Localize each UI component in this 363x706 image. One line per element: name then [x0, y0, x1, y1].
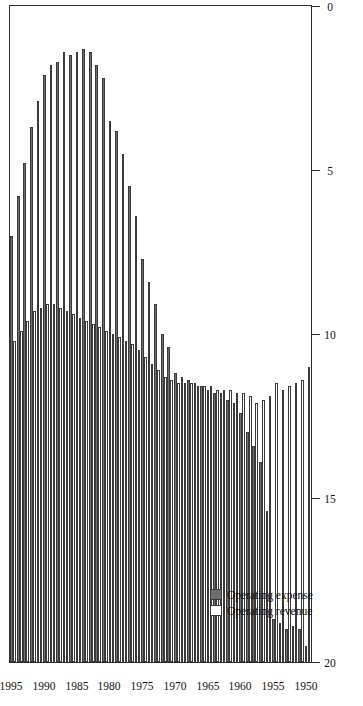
- bar-group: [167, 6, 174, 662]
- bar-group: [285, 6, 292, 662]
- bar-group: [226, 6, 233, 662]
- bar-group: [154, 6, 161, 662]
- bar-operating-revenue: [46, 304, 49, 662]
- bar-operating-revenue: [269, 396, 272, 662]
- legend-item: Operating revenue: [210, 604, 313, 617]
- bar-group: [213, 6, 220, 662]
- bar-operating-revenue: [33, 311, 36, 662]
- bar-group: [62, 6, 69, 662]
- bar-operating-revenue: [105, 331, 108, 662]
- bar-group: [147, 6, 154, 662]
- bar-operating-revenue: [138, 350, 141, 662]
- bar-operating-revenue: [223, 390, 226, 662]
- value-axis-tick-label: 15: [317, 493, 343, 505]
- value-axis-tick-label: 20: [317, 657, 343, 669]
- category-axis-tick-label: 1985: [60, 680, 94, 692]
- bar-operating-revenue: [301, 380, 304, 662]
- bar-operating-revenue: [40, 308, 43, 662]
- bar-group: [174, 6, 181, 662]
- bar-operating-revenue: [184, 383, 187, 662]
- category-axis-tick-label: 1980: [92, 680, 126, 692]
- category-axis-tick-label: 1960: [223, 680, 257, 692]
- bar-group: [23, 6, 30, 662]
- bar-group: [95, 6, 102, 662]
- bar-operating-revenue: [112, 334, 115, 662]
- bars-layer: [10, 6, 311, 662]
- bar-group: [252, 6, 259, 662]
- category-axis-tick-label: 1955: [256, 680, 290, 692]
- bar-operating-revenue: [59, 308, 62, 662]
- legend-swatch-revenue: [210, 605, 222, 616]
- bar-operating-revenue: [255, 403, 258, 662]
- category-axis-tick-label: 1990: [27, 680, 61, 692]
- category-axis-tick-label: 1975: [125, 680, 159, 692]
- value-axis-tick-label: 0: [317, 1, 343, 13]
- chart-legend: Operating expenseOperating revenue: [210, 588, 313, 617]
- category-axis-tick-label: 1950: [289, 680, 323, 692]
- bar-group: [36, 6, 43, 662]
- bar-operating-revenue: [118, 337, 121, 662]
- bar-operating-revenue: [210, 386, 213, 662]
- bar-operating-revenue: [262, 400, 265, 662]
- bar-operating-revenue: [197, 386, 200, 662]
- legend-label: Operating revenue: [227, 605, 312, 617]
- bar-operating-revenue: [203, 386, 206, 662]
- bar-group: [69, 6, 76, 662]
- bar-operating-revenue: [72, 314, 75, 662]
- bar-operating-revenue: [26, 321, 29, 662]
- bar-operating-revenue: [282, 390, 285, 662]
- bar-group: [141, 6, 148, 662]
- bar-operating-revenue: [79, 318, 82, 662]
- bar-group: [43, 6, 50, 662]
- bar-group: [291, 6, 298, 662]
- bar-operating-revenue: [92, 324, 95, 662]
- bar-group: [121, 6, 128, 662]
- rotated-chart-container: 05101520 1950195519601965197019751980198…: [0, 0, 363, 706]
- bar-operating-revenue: [190, 383, 193, 662]
- bar-operating-revenue: [249, 396, 252, 662]
- bar-group: [193, 6, 200, 662]
- legend-item: Operating expense: [210, 588, 313, 601]
- bar-operating-revenue: [295, 383, 298, 662]
- bar-group: [246, 6, 253, 662]
- bar-group: [219, 6, 226, 662]
- bar-operating-revenue: [66, 311, 69, 662]
- bar-operating-revenue: [13, 341, 16, 662]
- bar-group: [187, 6, 194, 662]
- category-axis-tick-label: 1965: [191, 680, 225, 692]
- bar-group: [259, 6, 266, 662]
- bar-operating-revenue: [236, 393, 239, 662]
- bar-group: [49, 6, 56, 662]
- legend-swatch-expense: [210, 589, 222, 600]
- bar-operating-revenue: [20, 331, 23, 662]
- bar-operating-revenue: [308, 367, 311, 662]
- bar-group: [102, 6, 109, 662]
- chart-canvas: 05101520 1950195519601965197019751980198…: [0, 0, 363, 706]
- bar-group: [278, 6, 285, 662]
- bar-group: [17, 6, 24, 662]
- bar-group: [115, 6, 122, 662]
- category-axis: 1950195519601965197019751980198519901995: [9, 662, 312, 663]
- plot-area: [9, 5, 312, 663]
- category-axis-tick-label: 1970: [158, 680, 192, 692]
- category-axis-tick-label: 1995: [0, 680, 28, 692]
- bar-operating-revenue: [242, 393, 245, 662]
- bar-group: [265, 6, 272, 662]
- legend-label: Operating expense: [227, 589, 313, 601]
- bar-group: [134, 6, 141, 662]
- bar-operating-revenue: [85, 321, 88, 662]
- bar-group: [206, 6, 213, 662]
- bar-group: [272, 6, 279, 662]
- bar-operating-revenue: [131, 344, 134, 662]
- bar-group: [161, 6, 168, 662]
- bar-group: [298, 6, 305, 662]
- bar-group: [75, 6, 82, 662]
- bar-operating-revenue: [177, 383, 180, 662]
- bar-group: [128, 6, 135, 662]
- bar-operating-revenue: [288, 386, 291, 662]
- bar-group: [200, 6, 207, 662]
- bar-operating-revenue: [53, 304, 56, 662]
- bar-operating-revenue: [170, 380, 173, 662]
- bar-operating-revenue: [229, 390, 232, 662]
- bar-operating-revenue: [98, 327, 101, 662]
